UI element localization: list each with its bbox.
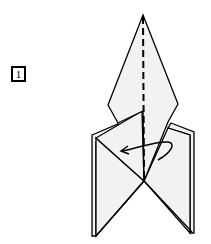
valley-fold-line xyxy=(143,17,144,178)
origami-diagram xyxy=(0,0,211,244)
